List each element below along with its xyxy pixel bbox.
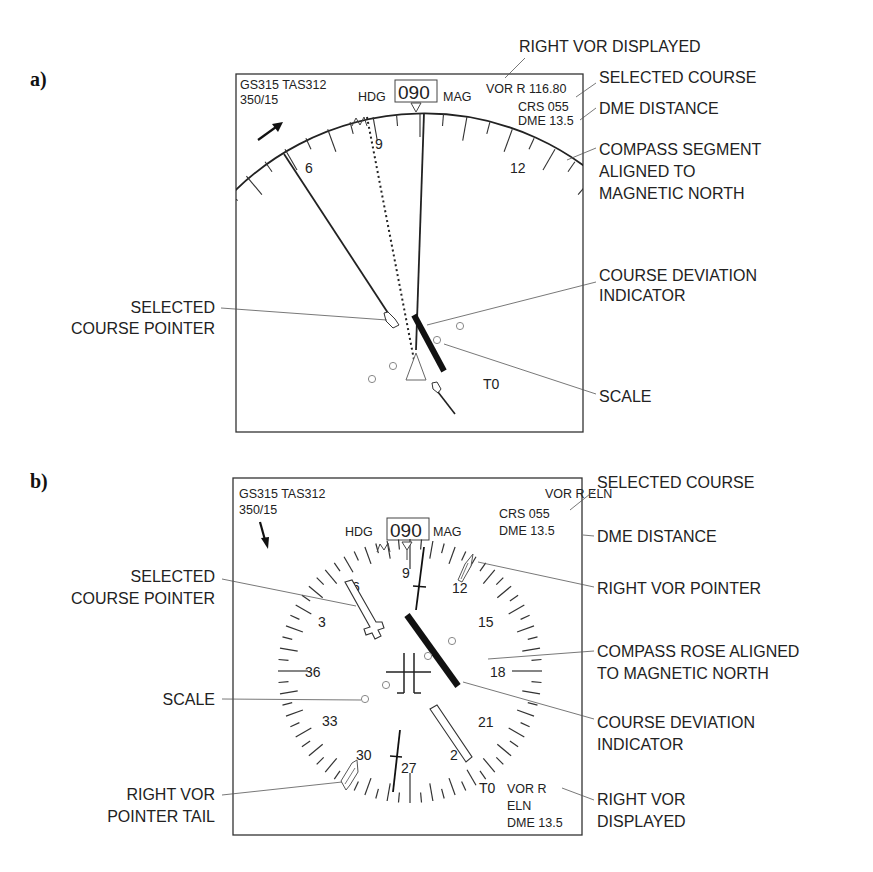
annotation-scale-b: SCALE <box>163 691 215 708</box>
compass-label-33-b: 33 <box>322 713 338 729</box>
annotation-selected-course-pointer-b-line1: SELECTED <box>131 568 215 585</box>
selected-course-pointer-icon-b <box>345 580 384 639</box>
to-from-indicator-a: T0 <box>483 376 500 392</box>
annotation-compass-segment-line2: ALIGNED TO <box>599 163 695 180</box>
hdg-label-b: HDG <box>345 525 373 539</box>
panel-letter-b: b) <box>30 470 48 493</box>
scale-dot <box>424 652 431 659</box>
gs-tas-readout-a: GS315 TAS312 <box>240 78 326 92</box>
ehsi-figure: a) GS315 TAS312 350/15 HDG 090 MAG VOR R… <box>0 0 873 872</box>
annotation-compass-segment-line1: COMPASS SEGMENT <box>599 141 762 158</box>
annotation-cdi-b-line2: INDICATOR <box>597 736 684 753</box>
scale-dot <box>433 336 440 343</box>
deviation-scale-b <box>361 637 455 702</box>
compass-label-9-b: 9 <box>402 565 410 581</box>
scale-dot <box>361 695 368 702</box>
bottom-vor-line2: ELN <box>507 799 531 813</box>
vor-bearing-line-a <box>416 113 424 350</box>
scale-dot <box>382 681 389 688</box>
annotation-vor-pointer-tail-line1: RIGHT VOR <box>126 786 215 803</box>
annotation-dme-distance-b: DME DISTANCE <box>597 528 717 545</box>
wind-arrow-icon <box>258 122 283 140</box>
compass-label-18-b: 18 <box>490 664 506 680</box>
annotation-selected-course-pointer-a-line2: COURSE POINTER <box>71 320 215 337</box>
mag-label-b: MAG <box>433 525 461 539</box>
compass-label-9-a: 9 <box>375 136 383 152</box>
course-pointer-tail-line-a <box>438 392 455 414</box>
annotation-vor-pointer-tail-line2: POINTER TAIL <box>107 808 215 825</box>
scale-dot <box>389 362 396 369</box>
scale-dot <box>368 375 375 382</box>
annotation-dme-distance-a: DME DISTANCE <box>599 100 719 117</box>
heading-value-b: 090 <box>390 520 422 541</box>
heading-value-a: 090 <box>398 82 430 103</box>
annotation-compass-rose-line2: TO MAGNETIC NORTH <box>597 665 769 682</box>
gs-tas-readout-b: GS315 TAS312 <box>239 487 325 501</box>
track-line-dotted <box>367 117 415 365</box>
heading-pointer-icon <box>411 103 421 112</box>
annotation-selected-course-pointer-b-line2: COURSE POINTER <box>71 590 215 607</box>
compass-label-3-b: 3 <box>318 614 326 630</box>
annotation-selected-course-b: SELECTED COURSE <box>597 474 754 491</box>
compass-rose-labels-b: 9 12 15 18 21 2 27 30 33 36 3 6 <box>305 565 506 776</box>
compass-label-12-b: 12 <box>452 580 468 596</box>
scale-dot <box>456 322 463 329</box>
annotation-cdi-b-line1: COURSE DEVIATION <box>597 714 755 731</box>
vor-pointer-tail-icon <box>341 760 358 790</box>
course-pointer-tail-icon-a <box>432 382 441 393</box>
bottom-vor-line3: DME 13.5 <box>507 816 563 830</box>
wind-readout-b: 350/15 <box>239 503 277 517</box>
to-from-indicator-b: T0 <box>479 780 496 796</box>
compass-label-12-a: 12 <box>510 160 526 176</box>
aircraft-symbol-icon-a <box>406 353 426 380</box>
panel-a: a) GS315 TAS312 350/15 HDG 090 MAG VOR R… <box>30 38 762 432</box>
annotation-cdi-a-line2: INDICATOR <box>599 287 686 304</box>
selected-course-line-a <box>284 154 388 313</box>
compass-label-15-b: 15 <box>478 614 494 630</box>
annotation-cdi-a-line1: COURSE DEVIATION <box>599 267 757 284</box>
compass-label-21-b: 21 <box>478 714 494 730</box>
hdg-label-a: HDG <box>358 90 386 104</box>
vor-frequency-a: VOR R 116.80 <box>486 82 566 96</box>
course-readout-b: CRS 055 <box>499 507 550 521</box>
course-readout-a: CRS 055 <box>518 100 569 114</box>
dme-readout-a: DME 13.5 <box>518 114 574 128</box>
annotation-selected-course-a: SELECTED COURSE <box>599 69 756 86</box>
compass-label-27-b: 27 <box>401 760 417 776</box>
mag-label-a: MAG <box>443 90 471 104</box>
wind-readout-a: 350/15 <box>240 93 278 107</box>
scale-dot <box>448 637 455 644</box>
bottom-vor-line1: VOR R <box>507 782 547 796</box>
annotation-compass-segment-line3: MAGNETIC NORTH <box>599 185 744 202</box>
annotation-right-vor-displayed-b-line1: RIGHT VOR <box>597 791 686 808</box>
annotation-right-vor-pointer: RIGHT VOR POINTER <box>597 580 761 597</box>
compass-label-36-b: 36 <box>305 664 321 680</box>
annotation-right-vor-displayed-a: RIGHT VOR DISPLAYED <box>519 38 701 55</box>
panel-b: b) GS315 TAS312 350/15 VOR R ELN CRS 055… <box>30 470 799 835</box>
annotation-selected-course-pointer-a-line1: SELECTED <box>131 299 215 316</box>
aircraft-symbol-icon-b <box>386 653 431 693</box>
wind-arrow-icon <box>260 522 269 549</box>
compass-label-30-b: 30 <box>356 747 372 763</box>
annotation-compass-rose-line1: COMPASS ROSE ALIGNED <box>597 643 799 660</box>
annotation-right-vor-displayed-b-line2: DISPLAYED <box>597 813 686 830</box>
panel-letter-a: a) <box>30 68 47 91</box>
dme-readout-b: DME 13.5 <box>499 524 555 538</box>
annotation-scale-a: SCALE <box>599 388 651 405</box>
compass-label-6-a: 6 <box>305 160 313 176</box>
